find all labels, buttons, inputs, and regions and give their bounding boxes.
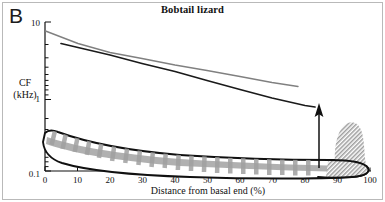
series-lower-tonotopic-line [61, 44, 315, 108]
figure-panel-b: B Bobtail lizard CF (kHz) Distance from … [0, 0, 385, 202]
apical-papilla-arrow [315, 103, 324, 168]
series-upper-tonotopic-line [46, 31, 299, 87]
plot-canvas [0, 0, 385, 202]
